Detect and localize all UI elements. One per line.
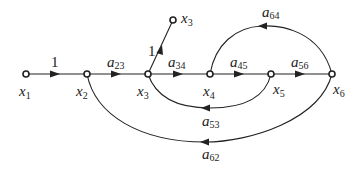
gain-label-a53: a53 (202, 113, 220, 130)
edge-x6-x4 (210, 26, 332, 74)
node-x3-output (170, 17, 176, 23)
node-label-x1: x1 (18, 83, 31, 101)
node-label-x6: x6 (332, 81, 345, 99)
arrow-icon (201, 105, 210, 112)
node-x2 (84, 71, 90, 77)
node-label-x4: x4 (202, 83, 215, 101)
node-label-x3: x3 (136, 83, 149, 101)
node-x3 (145, 71, 151, 77)
gain-label-x1-x2: 1 (51, 54, 59, 70)
arrow-icon (50, 71, 60, 78)
arrow-icon (111, 71, 121, 78)
gain-label-a64: a64 (262, 4, 280, 21)
gain-label-a56: a56 (291, 54, 309, 71)
node-label-x2: x2 (75, 83, 88, 101)
gain-label-a45: a45 (230, 54, 248, 71)
node-x5 (268, 71, 274, 77)
gain-label-x3-x3out: 1 (148, 43, 156, 59)
arrow-icon (295, 71, 305, 78)
node-x4 (207, 71, 213, 77)
arrow-icon (173, 71, 183, 78)
gain-label-a23: a23 (107, 54, 125, 71)
node-x1 (23, 71, 29, 77)
arrow-icon (258, 23, 267, 30)
node-label-x3-output: x3 (180, 10, 193, 28)
arrow-icon (200, 139, 209, 146)
gain-label-a62: a62 (202, 146, 220, 163)
signal-flow-graph: x1 x2 x3 x4 x5 x6 x3 1 a23 1 a34 a45 a56… (0, 0, 363, 171)
arrow-icon (234, 71, 244, 78)
node-x6 (329, 71, 335, 77)
node-label-x5: x5 (272, 81, 285, 99)
gain-label-a34: a34 (168, 54, 186, 71)
